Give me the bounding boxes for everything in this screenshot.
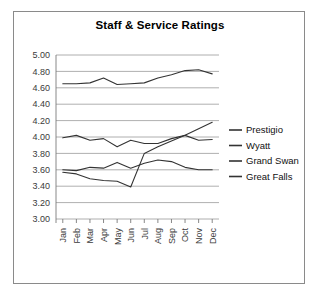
x-axis-tick-label: Mar — [85, 228, 95, 244]
cropped-top-text — [2, 0, 320, 5]
line-chart-plot: 5.004.804.604.404.204.003.803.603.403.20… — [14, 12, 306, 285]
chart-container: Staff & Service Ratings 5.004.804.604.40… — [13, 11, 305, 284]
y-axis-tick-label: 4.20 — [32, 116, 50, 126]
y-axis-tick-label: 3.80 — [32, 149, 50, 159]
legend-label-wyatt: Wyatt — [246, 140, 271, 151]
y-axis-tick-label: 4.60 — [32, 83, 50, 93]
x-axis-tick-label: Jan — [58, 228, 68, 243]
x-axis-tick-label: Apr — [99, 228, 109, 242]
y-axis-tick-label: 4.80 — [32, 67, 50, 77]
series-line-prestigio — [63, 70, 212, 85]
x-axis-tick-label: Feb — [72, 228, 82, 244]
x-axis-tick-label: Aug — [153, 228, 163, 244]
legend-label-great-falls: Great Falls — [246, 171, 293, 182]
x-axis-tick-label: Nov — [194, 228, 204, 245]
y-axis-tick-label: 3.60 — [32, 165, 50, 175]
x-axis-tick-label: Oct — [180, 228, 190, 243]
x-axis-tick-label: Dec — [208, 228, 218, 245]
legend-label-grand-swan: Grand Swan — [246, 155, 299, 166]
y-axis-tick-label: 4.40 — [32, 99, 50, 109]
y-axis-tick-label: 3.20 — [32, 198, 50, 208]
x-axis-tick-label: Sep — [167, 228, 177, 244]
y-axis-tick-label: 3.40 — [32, 181, 50, 191]
x-axis-tick-label: Jun — [126, 228, 136, 243]
y-axis-tick-label: 4.00 — [32, 132, 50, 142]
cropped-top-text-strip — [0, 0, 320, 9]
x-axis-tick-label: Jul — [140, 228, 150, 240]
legend-label-prestigio: Prestigio — [246, 124, 283, 135]
y-axis-tick-label: 5.00 — [32, 50, 50, 60]
x-axis-tick-label: May — [113, 228, 123, 246]
y-axis-tick-label: 3.00 — [32, 214, 50, 224]
series-line-great-falls — [63, 122, 212, 187]
